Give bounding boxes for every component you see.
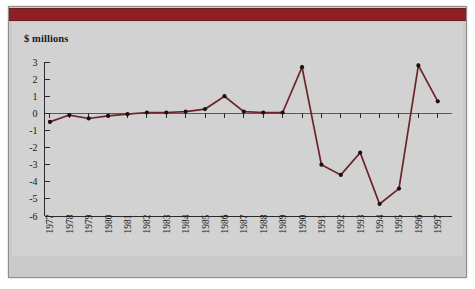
- y-tick-label: -6: [29, 211, 37, 222]
- data-point-marker: [436, 99, 440, 103]
- y-tick-label: -3: [29, 159, 37, 170]
- x-tick-label: 1987: [239, 214, 249, 233]
- data-point-marker: [164, 110, 168, 114]
- x-tick-label: 1990: [298, 214, 308, 233]
- x-tick-label: 1994: [375, 214, 385, 233]
- data-point-marker: [184, 110, 188, 114]
- data-point-marker: [125, 112, 129, 116]
- y-tick-label: -4: [29, 176, 37, 187]
- x-tick-label: 1981: [123, 214, 133, 233]
- data-point-marker: [222, 94, 226, 98]
- data-point-marker: [106, 114, 110, 118]
- y-tick-label: 1: [33, 91, 38, 102]
- x-tick-label: 1991: [317, 214, 327, 233]
- figure-page: $ millions 3210-1-2-3-4-5-61977197819791…: [0, 0, 475, 289]
- data-point-marker: [416, 63, 420, 67]
- x-tick-label: 1992: [336, 214, 346, 233]
- data-point-marker: [319, 163, 323, 167]
- x-tick-label: 1977: [45, 214, 55, 233]
- x-tick-label: 1996: [414, 214, 424, 233]
- line-chart: 3210-1-2-3-4-5-6197719781979198019811982…: [0, 0, 475, 289]
- data-point-marker: [377, 202, 381, 206]
- x-tick-label: 1979: [84, 214, 94, 233]
- data-point-marker: [339, 173, 343, 177]
- x-tick-label: 1986: [220, 214, 230, 233]
- y-tick-label: -5: [29, 193, 37, 204]
- y-tick-label: 0: [33, 108, 38, 119]
- y-tick-label: -2: [29, 142, 37, 153]
- x-tick-label: 1989: [278, 214, 288, 233]
- data-point-marker: [87, 116, 91, 120]
- data-point-marker: [261, 110, 265, 114]
- data-point-marker: [203, 107, 207, 111]
- y-tick-label: 3: [33, 57, 38, 68]
- x-tick-label: 1978: [65, 214, 75, 233]
- x-tick-label: 1980: [104, 214, 114, 233]
- data-point-marker: [281, 110, 285, 114]
- data-point-marker: [358, 151, 362, 155]
- x-tick-label: 1995: [394, 214, 404, 233]
- x-tick-label: 1985: [201, 214, 211, 233]
- x-tick-label: 1997: [433, 214, 443, 233]
- x-tick-label: 1988: [259, 214, 269, 233]
- x-tick-label: 1984: [181, 214, 191, 233]
- x-tick-label: 1983: [162, 214, 172, 233]
- y-tick-label: -1: [29, 125, 37, 136]
- data-point-marker: [397, 187, 401, 191]
- data-point-marker: [300, 65, 304, 69]
- data-point-marker: [67, 113, 71, 117]
- data-point-marker: [145, 110, 149, 114]
- data-point-marker: [242, 110, 246, 114]
- y-tick-label: 2: [33, 74, 38, 85]
- data-point-marker: [48, 120, 52, 124]
- x-tick-label: 1982: [142, 214, 152, 233]
- x-tick-label: 1993: [356, 214, 366, 233]
- series-line: [50, 65, 438, 204]
